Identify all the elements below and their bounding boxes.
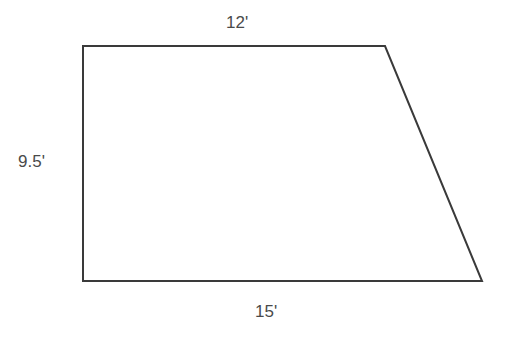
top-side-length-label: 12' (226, 14, 248, 31)
left-side-height-label: 9.5' (18, 153, 45, 170)
trapezoid-shape (83, 46, 482, 281)
bottom-side-length-label: 15' (255, 303, 277, 320)
trapezoid-diagram (0, 0, 510, 341)
